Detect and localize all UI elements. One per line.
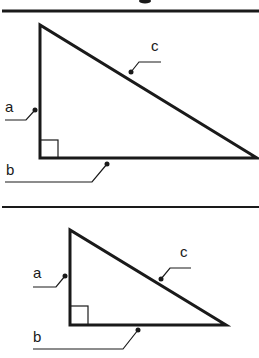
label-a-small: a bbox=[33, 265, 41, 280]
label-b-large: b bbox=[6, 162, 14, 177]
triangle-large bbox=[5, 25, 257, 182]
leader-b bbox=[5, 162, 110, 183]
triangle-small bbox=[33, 230, 226, 349]
triangle-small-outline bbox=[70, 230, 226, 325]
leader-c bbox=[129, 62, 162, 75]
title-fragment bbox=[139, 0, 151, 4]
triangle-large-outline bbox=[40, 25, 257, 158]
diagram-canvas bbox=[0, 0, 259, 358]
right-angle-marker bbox=[40, 140, 58, 158]
label-c-small: c bbox=[180, 244, 188, 259]
right-angle-marker bbox=[70, 306, 88, 325]
label-a-large: a bbox=[5, 99, 13, 114]
leader-c bbox=[159, 268, 192, 282]
label-c-large: c bbox=[151, 38, 159, 53]
leader-b bbox=[33, 328, 141, 350]
label-b-small: b bbox=[33, 329, 41, 344]
